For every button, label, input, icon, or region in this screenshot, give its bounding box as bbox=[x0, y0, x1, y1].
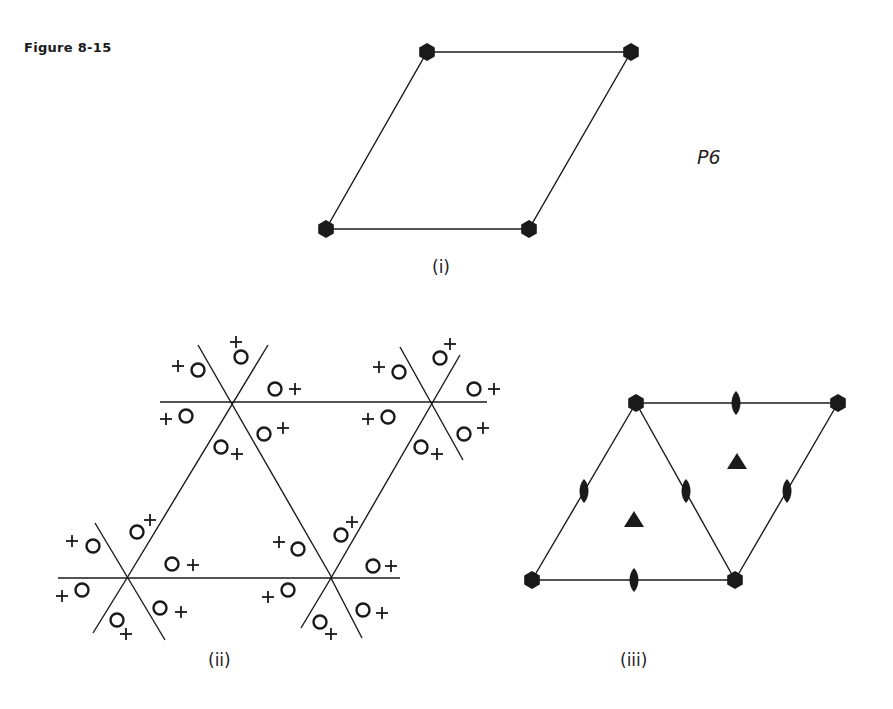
panel-i-unit-cell bbox=[318, 43, 639, 238]
crystallography-diagram bbox=[0, 0, 893, 709]
panel-ii-motif-pattern bbox=[58, 345, 487, 640]
sixfold-axis-icon bbox=[524, 571, 540, 589]
sixfold-axis-icon bbox=[727, 571, 743, 589]
sixfold-axis-icon bbox=[830, 394, 846, 412]
sixfold-axis-icon bbox=[521, 220, 537, 238]
panel-ii-motifs bbox=[56, 336, 500, 640]
sixfold-axis-icon bbox=[628, 394, 644, 412]
twofold-axis-icon bbox=[732, 391, 741, 415]
twofold-axis-icon bbox=[630, 568, 639, 592]
sixfold-axis-icon bbox=[623, 43, 639, 61]
twofold-axis-icon bbox=[783, 479, 792, 503]
twofold-axis-icon bbox=[580, 479, 589, 503]
threefold-axis-icon bbox=[624, 511, 644, 527]
sixfold-axis-icon bbox=[318, 220, 334, 238]
panel-iii-symmetry-elements bbox=[524, 391, 846, 592]
sixfold-axis-icon bbox=[419, 43, 435, 61]
threefold-axis-icon bbox=[727, 453, 747, 469]
